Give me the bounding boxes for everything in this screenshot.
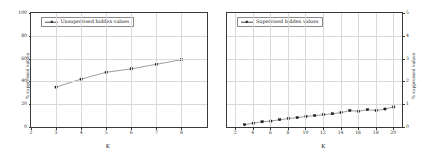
grid-line-vertical: [156, 13, 157, 127]
x-tick-mark: [81, 127, 82, 130]
y-tick-label: 4: [406, 34, 409, 39]
y-tick-label: 20: [21, 102, 27, 107]
y-tick-mark: [402, 36, 405, 37]
legend-marker-icon: [241, 20, 254, 24]
grid-line-vertical: [305, 13, 306, 127]
data-point-marker: [331, 113, 333, 115]
x-axis-title-left: K: [0, 144, 216, 149]
x-tick-label: 8: [180, 131, 183, 136]
legend-supervised: Supervised hidden values: [237, 17, 324, 27]
x-tick-label: 6: [130, 131, 133, 136]
x-tick-mark: [323, 127, 324, 130]
y-tick-label: 2: [406, 79, 409, 84]
x-tick-mark: [393, 127, 394, 130]
x-tick-label: 2: [30, 131, 33, 136]
x-tick-mark: [270, 127, 271, 130]
grid-line-vertical: [181, 13, 182, 127]
grid-line-vertical: [393, 13, 394, 127]
x-tick-label: 14: [338, 131, 344, 136]
y-tick-mark: [402, 127, 405, 128]
grid-line-vertical: [235, 13, 236, 127]
y-tick-label: 3: [406, 56, 409, 61]
grid-line-vertical: [341, 13, 342, 127]
y-tick-label: 5: [406, 11, 409, 16]
x-tick-label: 16: [355, 131, 361, 136]
series-line: [56, 60, 181, 87]
data-point-marker: [296, 117, 298, 119]
grid-line-vertical: [270, 13, 271, 127]
legend-label-unsupervised: Unsupervised hidden values: [61, 20, 130, 25]
grid-line-vertical: [288, 13, 289, 127]
y-tick-mark: [402, 81, 405, 82]
x-tick-label: 6: [269, 131, 272, 136]
y-tick-mark: [29, 81, 32, 82]
series-graphic-unsupervised: [31, 13, 207, 127]
grid-line-vertical: [358, 13, 359, 127]
grid-line-vertical: [56, 13, 57, 127]
y-tick-label: 1: [406, 102, 409, 107]
x-tick-label: 12: [320, 131, 326, 136]
grid-line-vertical: [323, 13, 324, 127]
x-tick-mark: [288, 127, 289, 130]
grid-line-horizontal: [31, 104, 207, 105]
x-tick-mark: [56, 127, 57, 130]
y-tick-label: 60: [21, 56, 27, 61]
y-tick-mark: [29, 127, 32, 128]
data-point-marker: [383, 108, 385, 110]
x-tick-mark: [131, 127, 132, 130]
x-tick-label: 7: [155, 131, 158, 136]
grid-line-vertical: [131, 13, 132, 127]
grid-line-horizontal: [31, 59, 207, 60]
x-tick-mark: [358, 127, 359, 130]
plot-area-supervised: Supervised hidden values 246810121416182…: [226, 12, 404, 128]
y-tick-mark: [402, 59, 405, 60]
x-tick-label: 8: [286, 131, 289, 136]
y-tick-mark: [402, 13, 405, 14]
data-point-marker: [313, 115, 315, 117]
data-point-marker: [348, 110, 350, 112]
y-tick-label: 100: [18, 11, 27, 16]
y-tick-label: 0: [24, 125, 27, 130]
data-point-marker: [366, 109, 368, 111]
y-tick-mark: [29, 104, 32, 105]
x-tick-label: 10: [303, 131, 309, 136]
x-axis-title-right: K: [216, 144, 431, 149]
x-tick-label: 18: [373, 131, 379, 136]
data-point-marker: [261, 121, 263, 123]
grid-line-horizontal: [227, 81, 403, 82]
grid-line-vertical: [376, 13, 377, 127]
x-tick-label: 2: [234, 131, 237, 136]
grid-line-vertical: [106, 13, 107, 127]
y-tick-mark: [402, 104, 405, 105]
grid-line-vertical: [253, 13, 254, 127]
grid-line-horizontal: [227, 36, 403, 37]
chart-panel-supervised: % suppressed values Supervised hidden va…: [216, 0, 431, 151]
y-tick-label: 80: [21, 34, 27, 39]
figure-container: % suppressed values Unsupervised hidden …: [0, 0, 431, 151]
x-tick-label: 3: [55, 131, 58, 136]
grid-line-vertical: [81, 13, 82, 127]
grid-line-horizontal: [31, 81, 207, 82]
x-tick-mark: [235, 127, 236, 130]
legend-unsupervised: Unsupervised hidden values: [41, 17, 134, 27]
grid-line-horizontal: [31, 36, 207, 37]
x-tick-label: 4: [80, 131, 83, 136]
grid-line-horizontal: [227, 104, 403, 105]
plot-area-unsupervised: Unsupervised hidden values 2345678020406…: [30, 12, 208, 128]
x-tick-mark: [156, 127, 157, 130]
x-tick-label: 5: [105, 131, 108, 136]
x-tick-mark: [376, 127, 377, 130]
chart-panel-unsupervised: % suppressed values Unsupervised hidden …: [0, 0, 216, 151]
series-line: [244, 107, 393, 125]
x-tick-mark: [181, 127, 182, 130]
y-tick-mark: [29, 36, 32, 37]
x-tick-label: 4: [251, 131, 254, 136]
x-tick-mark: [31, 127, 32, 130]
data-point-marker: [243, 124, 245, 126]
y-tick-mark: [29, 13, 32, 14]
x-tick-mark: [341, 127, 342, 130]
y-tick-label: 0: [406, 125, 409, 130]
x-tick-mark: [106, 127, 107, 130]
x-tick-mark: [305, 127, 306, 130]
data-point-marker: [278, 119, 280, 121]
